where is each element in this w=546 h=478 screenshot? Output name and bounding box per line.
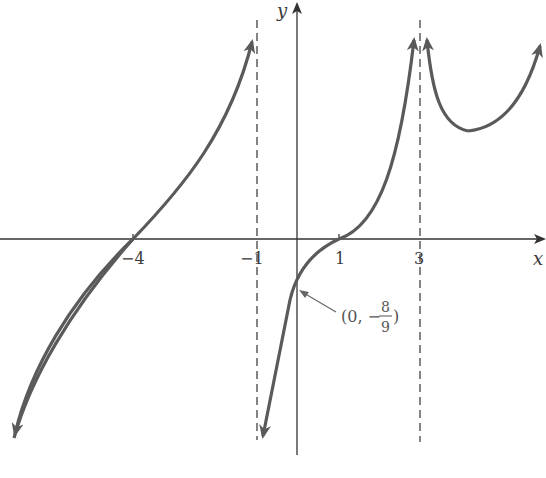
annotation-denominator: 9 xyxy=(381,319,390,335)
y-axis-label: y xyxy=(276,0,288,21)
x-axis-label: x xyxy=(533,248,543,269)
tick-label-1: 1 xyxy=(335,249,345,268)
curve-left-tail xyxy=(15,239,133,434)
annotation-pointer xyxy=(302,292,336,312)
tick-label-3: 3 xyxy=(414,249,424,268)
tick-label-neg4: −4 xyxy=(121,249,145,268)
annotation-arrowhead-icon xyxy=(299,290,309,298)
annotation-numerator: 8 xyxy=(381,299,390,315)
annotation-close: ) xyxy=(393,307,399,326)
x-ticks xyxy=(133,234,339,239)
y-intercept-annotation: (0, − 8 9 ) xyxy=(341,299,399,335)
curve-middle-branch xyxy=(339,40,414,239)
curve-middle-tail xyxy=(263,239,339,436)
annotation-open: (0, − xyxy=(341,307,381,326)
curve-right-branch-left xyxy=(427,40,468,131)
rational-function-graph: y x −4 −1 1 3 (0, − 8 9 ) xyxy=(0,0,546,478)
curve-right-branch-right xyxy=(468,46,540,131)
tick-label-neg1: −1 xyxy=(240,249,264,268)
